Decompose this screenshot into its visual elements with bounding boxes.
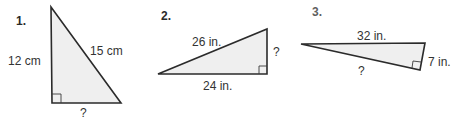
triangle-2-hypotenuse-label: 26 in. — [192, 35, 221, 49]
problem-1: 1. 12 cm 15 cm ? — [8, 7, 123, 119]
problem-2-number: 2. — [161, 9, 171, 23]
triangle-3-top-side-label: 32 in. — [357, 29, 386, 43]
problem-1-number: 1. — [16, 14, 26, 28]
problem-2: 2. 26 in. ? 24 in. — [158, 9, 280, 93]
triangle-1-hypotenuse-label: 15 cm — [90, 44, 123, 58]
triangle-1-vertical-leg-label: 12 cm — [8, 54, 41, 68]
triangle-problems-figure: 1. 12 cm 15 cm ? 2. 26 in. ? 24 in. 3. 3… — [0, 0, 459, 119]
triangle-1-horizontal-leg-label: ? — [80, 106, 87, 119]
triangle-3-short-leg-label: 7 in. — [428, 55, 451, 69]
triangle-2-horizontal-leg-label: 24 in. — [203, 79, 232, 93]
triangle-2-vertical-leg-label: ? — [273, 45, 280, 59]
problem-3-number: 3. — [312, 5, 322, 19]
problem-3: 3. 32 in. 7 in. ? — [301, 5, 451, 78]
triangle-3-long-leg-label: ? — [358, 64, 365, 78]
